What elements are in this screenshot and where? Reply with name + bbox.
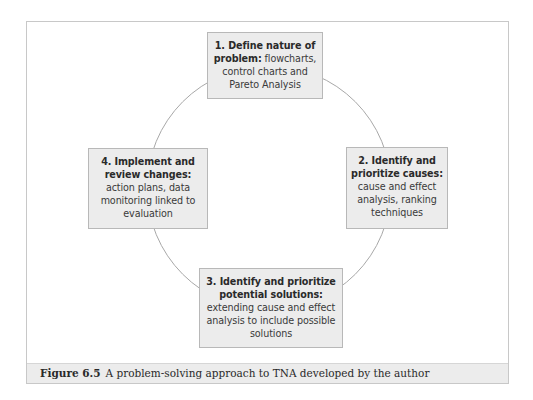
step-4-title-cont: review changes: <box>105 169 192 180</box>
step-1-title: 1. Define nature of <box>215 40 315 51</box>
step-3-desc-3: solutions <box>250 328 292 339</box>
step-1-desc: flowcharts, <box>262 53 317 64</box>
figure-label: Figure 6.5 <box>40 367 101 379</box>
step-4-title: 4. Implement and <box>101 156 195 167</box>
step-2-box: 2. Identify and prioritize causes: cause… <box>346 147 448 229</box>
step-2-title: 2. Identify and <box>358 155 436 166</box>
step-1-desc-3: Pareto Analysis <box>229 79 301 90</box>
step-1-box: 1. Define nature of problem: flowcharts,… <box>207 32 323 99</box>
figure-caption-text: A problem-solving approach to TNA develo… <box>106 367 430 379</box>
step-3-title: 3. Identify and prioritize <box>206 276 335 287</box>
step-3-desc: extending cause and effect <box>207 302 335 313</box>
step-2-desc-3: techniques <box>371 207 423 218</box>
figure-caption: Figure 6.5A problem-solving approach to … <box>27 363 508 383</box>
step-1-title-cont: problem: <box>214 53 262 64</box>
step-4-box: 4. Implement and review changes: action … <box>88 148 208 229</box>
step-2-desc: cause and effect <box>358 181 436 192</box>
step-3-title-cont: potential solutions: <box>219 289 323 300</box>
step-2-desc-2: analysis, ranking <box>357 194 437 205</box>
step-4-desc-3: evaluation <box>123 208 172 219</box>
step-1-desc-2: control charts and <box>222 66 308 77</box>
step-3-desc-2: analysis to include possible <box>207 315 336 326</box>
step-4-desc-2: monitoring linked to <box>101 195 196 206</box>
step-2-title-cont: prioritize causes: <box>351 168 443 179</box>
step-3-box: 3. Identify and prioritize potential sol… <box>199 268 343 348</box>
step-4-desc: action plans, data <box>106 182 190 193</box>
